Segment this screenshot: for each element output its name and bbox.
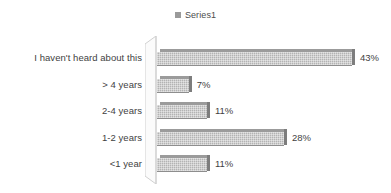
bar-body[interactable] <box>157 105 207 119</box>
bar-row[interactable]: 11% <box>157 102 210 119</box>
bar-value-label: 11% <box>215 157 233 170</box>
bar-body[interactable] <box>157 132 284 146</box>
bar-row[interactable]: 43% <box>157 49 355 66</box>
bars-layer: 43%7%11%28%11% <box>0 36 391 184</box>
plot-area: I haven't heard about this > 4 years 2-4… <box>0 36 391 184</box>
bar-top-bevel <box>160 129 287 132</box>
bar-body[interactable] <box>157 79 189 93</box>
bar-top-bevel <box>160 102 210 105</box>
bar-body[interactable] <box>157 158 207 172</box>
bar-end-cap <box>207 102 210 118</box>
bar-value-label: 7% <box>197 78 211 91</box>
bar-body[interactable] <box>157 52 352 66</box>
bar-top-bevel <box>160 155 210 158</box>
bar-row[interactable]: 11% <box>157 155 210 172</box>
bar-end-cap <box>352 49 355 65</box>
bar-end-cap <box>207 155 210 171</box>
bar-value-label: 11% <box>215 104 233 117</box>
bar-chart: Series1 I haven't heard about this > 4 y… <box>0 0 391 193</box>
bar-row[interactable]: 7% <box>157 76 192 93</box>
legend-entry-series1[interactable]: Series1 <box>175 10 216 20</box>
bar-end-cap <box>189 76 192 92</box>
legend-label: Series1 <box>185 10 216 20</box>
legend-swatch-icon <box>175 12 181 18</box>
bar-value-label: 43% <box>360 51 379 64</box>
bar-top-bevel <box>160 49 355 52</box>
bar-value-label: 28% <box>292 131 311 144</box>
chart-legend: Series1 <box>0 8 391 22</box>
bar-top-bevel <box>160 76 192 79</box>
bar-end-cap <box>284 129 287 145</box>
bar-row[interactable]: 28% <box>157 129 287 146</box>
